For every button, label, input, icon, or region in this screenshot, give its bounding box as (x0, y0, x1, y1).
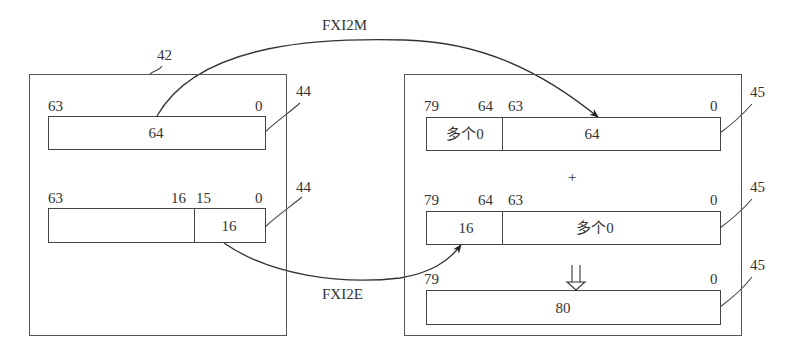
field-64-label: 64 (146, 126, 167, 141)
bit-79: 79 (424, 272, 439, 287)
bit-63: 63 (48, 191, 63, 206)
ref-45-b: 45 (750, 180, 765, 195)
bit-16: 16 (171, 191, 186, 206)
field-zeros-label: 多个0 (573, 221, 617, 236)
field-16-label: 16 (221, 218, 238, 233)
ref-45-a: 45 (750, 85, 765, 100)
bit-63: 63 (508, 193, 523, 208)
bit-64: 64 (478, 99, 493, 114)
source-register-64: 64 (48, 116, 266, 150)
bit-0: 0 (255, 191, 263, 206)
bit-15: 15 (196, 191, 211, 206)
bit-79: 79 (424, 193, 439, 208)
bit-79: 79 (424, 99, 439, 114)
bit-64: 64 (478, 193, 493, 208)
ref-44-a: 44 (296, 84, 311, 99)
source-register-16: 16 (48, 208, 266, 243)
bit-0: 0 (255, 99, 263, 114)
label-fxi2e: FXI2E (322, 287, 363, 302)
ref-44-b: 44 (296, 180, 311, 195)
field-16-label: 16 (456, 221, 477, 236)
bit-63: 63 (48, 99, 63, 114)
ref-45-c: 45 (750, 258, 765, 273)
ref-42: 42 (157, 48, 172, 63)
field-zeros-label: 多个0 (446, 127, 484, 142)
leader-42 (150, 66, 162, 74)
plus-operator: + (568, 170, 576, 185)
target-register-b: 16 多个0 (426, 211, 721, 245)
bit-0: 0 (710, 99, 718, 114)
target-register-result: 80 (426, 290, 721, 325)
source-unit-box (29, 74, 287, 336)
field-64-label: 64 (582, 127, 603, 142)
bit-0: 0 (710, 193, 718, 208)
bit-63: 63 (508, 99, 523, 114)
target-register-a: 多个0 64 (426, 117, 721, 151)
field-80-label: 80 (553, 300, 574, 315)
label-fxi2m: FXI2M (322, 18, 367, 33)
bit-0: 0 (710, 272, 718, 287)
